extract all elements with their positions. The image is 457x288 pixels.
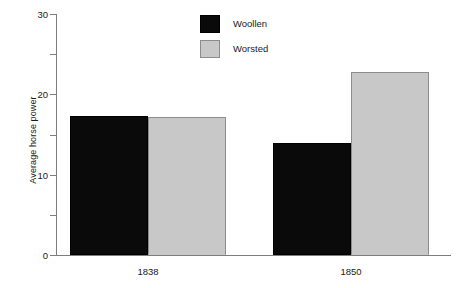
y-tick-label: 0 (4, 250, 48, 261)
y-tick-major (50, 255, 56, 256)
bar-worsted-1838 (148, 117, 226, 255)
y-tick-label: 20 (4, 89, 48, 100)
y-tick-label: 10 (4, 169, 48, 180)
legend-label-woollen: Woollen (233, 18, 267, 29)
x-axis-line (56, 255, 451, 256)
legend-swatch-worsted (200, 40, 220, 58)
legend-item-worsted: Worsted (200, 36, 268, 61)
y-axis-title: Average horse power (28, 45, 38, 235)
legend-swatch-woollen (200, 15, 220, 33)
x-tick-label: 1850 (340, 266, 361, 277)
y-tick-label: 30 (4, 9, 48, 20)
bar-chart: Average horse power 0102030 18381850 Woo… (0, 0, 457, 288)
legend-label-worsted: Worsted (233, 43, 268, 54)
bar-worsted-1850 (351, 72, 429, 255)
bar-woollen-1850 (273, 143, 351, 255)
x-tick-label: 1838 (137, 266, 158, 277)
legend-item-woollen: Woollen (200, 11, 268, 36)
legend: Woollen Worsted (200, 11, 268, 61)
bar-woollen-1838 (70, 116, 148, 255)
